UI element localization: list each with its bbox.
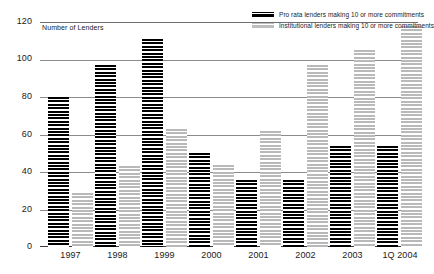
x-axis-label-2003: 2003 xyxy=(330,250,375,260)
bar-group-1998 xyxy=(95,22,140,247)
bar-institutional-2002 xyxy=(307,65,328,247)
bar-pro-rata-1998 xyxy=(95,65,116,247)
bar-institutional-1998 xyxy=(119,166,140,247)
bar-group-2001 xyxy=(236,22,281,247)
x-axis-label-2001: 2001 xyxy=(236,250,281,260)
pro-rata-swatch-icon xyxy=(252,12,274,17)
legend-label-institutional: Institutional lenders making 10 or more … xyxy=(279,22,434,29)
y-axis-tick-40: 40 xyxy=(0,167,32,176)
x-axis-label-1999: 1999 xyxy=(142,250,187,260)
y-axis-tick-80: 80 xyxy=(0,92,32,101)
legend-item-institutional: Institutional lenders making 10 or more … xyxy=(252,21,434,30)
y-axis-tick-60: 60 xyxy=(0,130,32,139)
bar-group-2002 xyxy=(283,22,328,247)
chart-legend: Pro rata lenders making 10 or more commi… xyxy=(252,10,434,32)
bar-group-2003 xyxy=(330,22,375,247)
bar-pro-rata-1999 xyxy=(142,39,163,247)
plot-area xyxy=(40,22,418,247)
bar-institutional-2003 xyxy=(354,50,375,247)
bar-institutional-2001 xyxy=(260,131,281,247)
y-axis-tick-100: 100 xyxy=(0,54,32,63)
bar-pro-rata-2002 xyxy=(283,180,304,248)
legend-item-pro-rata: Pro rata lenders making 10 or more commi… xyxy=(252,10,434,19)
bar-group-1997 xyxy=(48,22,93,247)
legend-label-pro-rata: Pro rata lenders making 10 or more commi… xyxy=(279,11,424,18)
x-axis-label-2000: 2000 xyxy=(189,250,234,260)
bar-pro-rata-1q-2004 xyxy=(377,146,398,247)
y-axis-tick-20: 20 xyxy=(0,205,32,214)
bar-institutional-1999 xyxy=(166,129,187,247)
bar-institutional-2000 xyxy=(213,165,234,248)
bar-pro-rata-2003 xyxy=(330,146,351,247)
y-axis-tick-0: 0 xyxy=(0,242,32,251)
x-axis-label-1998: 1998 xyxy=(95,250,140,260)
institutional-swatch-icon xyxy=(252,23,274,28)
bar-pro-rata-1997 xyxy=(48,97,69,247)
bar-group-2000 xyxy=(189,22,234,247)
x-axis-label-1997: 1997 xyxy=(48,250,93,260)
bar-group-1q-2004 xyxy=(377,22,422,247)
bar-institutional-1q-2004 xyxy=(401,26,422,247)
bar-institutional-1997 xyxy=(72,193,93,247)
bar-pro-rata-2001 xyxy=(236,180,257,248)
x-axis-label-2002: 2002 xyxy=(283,250,328,260)
y-axis-tick-120: 120 xyxy=(0,17,32,26)
x-axis-label-1q-2004: 1Q 2004 xyxy=(375,250,425,260)
bar-pro-rata-2000 xyxy=(189,153,210,247)
bar-group-1999 xyxy=(142,22,187,247)
